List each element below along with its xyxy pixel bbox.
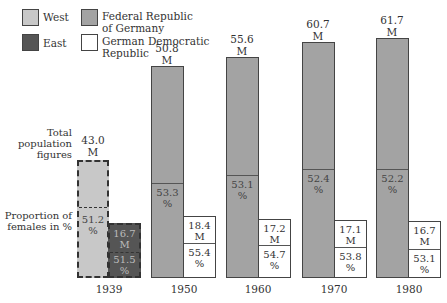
label-total-line3: figures [0,149,72,160]
pop-unit: M [409,236,440,247]
pct-label: 53.3 % [152,187,183,209]
pct-label: 54.7 % [259,249,290,271]
pop-value: 43.0 [78,134,108,146]
pct-value: 51.5 [110,254,139,265]
pop-unit: M [78,146,108,158]
legend-label-gdr-2: Republic [102,48,149,59]
pct-unit: % [303,184,334,195]
pop-label-1939-east: 16.7 M [110,228,139,250]
bar-1950-frg: 53.3 % [151,66,184,278]
year-label-1960: 1960 [242,283,274,295]
label-total-line2: population [0,138,72,149]
bar-split [110,252,139,253]
pop-label-1939-west: 43.0 M [78,134,108,158]
pop-label-1970-gdr: 17.1 M [335,224,366,246]
legend-label-east: East [43,38,67,49]
legend-swatch-gdr [81,34,98,51]
bar-1970-frg: 52.4 % [302,42,335,278]
year-label-1970: 1970 [318,283,350,295]
pop-value: 16.7 [110,228,139,239]
legend-swatch-frg [81,9,98,26]
bar-split [409,249,440,250]
pct-label: 53.1 % [409,253,440,275]
pop-value: 50.8 [151,42,183,54]
pct-unit: % [335,262,366,273]
bar-1960-frg: 53.1 % [226,57,259,278]
year-label-1950: 1950 [168,283,200,295]
bar-split [259,245,290,246]
pop-label-1950-frg: 50.8 M [151,42,183,66]
label-proportion-females: Proportion of females in % [0,210,72,232]
bar-1939-east: 16.7 M 51.5 % [108,223,141,278]
pop-label-1960-gdr: 17.2 M [259,223,290,245]
pct-unit: % [227,190,258,201]
pop-label-1950-gdr: 18.4 M [184,220,215,242]
pct-value: 55.4 [184,247,215,258]
pct-value: 52.4 [303,173,334,184]
label-prop-line1: Proportion of [0,210,72,221]
pct-unit: % [377,184,408,195]
pop-value: 60.7 [302,18,334,30]
pop-label-1960-frg: 55.6 M [226,33,258,57]
bar-1960-gdr: 17.2 M 54.7 % [258,219,291,278]
legend-label-west: West [43,12,69,23]
year-label-1980: 1980 [393,283,425,295]
pop-value: 55.6 [226,33,258,45]
pct-unit: % [152,198,183,209]
pct-value: 53.8 [335,251,366,262]
pct-value: 53.1 [227,179,258,190]
pop-unit: M [302,30,334,42]
bar-split [377,169,408,170]
legend-label-frg-2: of Germany [102,23,164,34]
pct-value: 52.2 [377,173,408,184]
legend-swatch-east [22,34,39,51]
pct-unit: % [409,264,440,275]
pct-label: 51.5 % [110,254,139,276]
bar-split [184,243,215,244]
pct-label: 52.2 % [377,173,408,195]
pop-value: 18.4 [184,220,215,231]
bar-1939-west: 51.2 % [77,160,109,278]
label-total-line1: Total [0,127,72,138]
pct-unit: % [79,225,107,236]
pop-value: 17.2 [259,223,290,234]
bar-split [303,169,334,170]
pop-value: 16.7 [409,225,440,236]
legend-label-frg-1: Federal Republic [102,11,193,22]
pct-value: 53.3 [152,187,183,198]
pop-label-1970-frg: 60.7 M [302,18,334,42]
pct-value: 51.2 [79,214,107,225]
label-prop-line2: females in % [0,221,72,232]
pct-label: 53.8 % [335,251,366,273]
pct-value: 53.1 [409,253,440,264]
pop-value: 61.7 [376,14,408,26]
pop-unit: M [184,231,215,242]
pop-unit: M [376,26,408,38]
pct-unit: % [110,265,139,276]
bar-split [335,247,366,248]
legend-swatch-west [22,9,39,26]
pct-label: 55.4 % [184,247,215,269]
pop-label-1980-frg: 61.7 M [376,14,408,38]
label-total-population: Total population figures [0,127,72,160]
pop-unit: M [110,239,139,250]
pop-label-1980-gdr: 16.7 M [409,225,440,247]
bar-split [79,207,107,208]
pop-unit: M [335,235,366,246]
pct-unit: % [259,260,290,271]
bar-1980-frg: 52.2 % [376,38,409,278]
pct-value: 54.7 [259,249,290,260]
bar-1970-gdr: 17.1 M 53.8 % [334,220,367,278]
pop-value: 17.1 [335,224,366,235]
pct-label: 53.1 % [227,179,258,201]
bar-1980-gdr: 16.7 M 53.1 % [408,221,441,278]
pct-label: 52.4 % [303,173,334,195]
pct-label: 51.2 % [79,214,107,236]
bar-split [152,183,183,184]
pop-unit: M [259,234,290,245]
bar-1950-gdr: 18.4 M 55.4 % [183,216,216,278]
year-label-1939: 1939 [93,283,125,295]
pop-unit: M [151,54,183,66]
bar-split [227,175,258,176]
pop-unit: M [226,45,258,57]
